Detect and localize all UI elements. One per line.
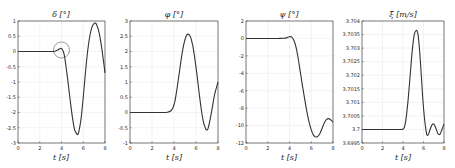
x-tick-label: 8	[331, 145, 334, 151]
y-tick-label: 0.5	[120, 94, 128, 100]
y-tick-label: 3.7015	[343, 86, 361, 92]
x-axis-label: t [s]	[281, 153, 298, 162]
x-tick-label: 8	[442, 145, 445, 151]
x-axis-label: t [s]	[395, 153, 412, 162]
x-tick-label: 8	[103, 145, 106, 151]
x-tick-label: 2	[381, 145, 384, 151]
y-tick-label: -2.5	[6, 125, 16, 131]
y-tick-label: -3	[11, 140, 16, 146]
y-tick-label: -0.5	[6, 64, 16, 70]
x-axis-label: t [s]	[166, 153, 183, 162]
grid	[246, 21, 333, 143]
y-tick-label: -2	[11, 109, 16, 115]
y-tick-label: 3.7025	[343, 58, 361, 64]
y-tick-label: 2	[241, 18, 244, 24]
y-tick-label: -1.5	[6, 94, 16, 100]
panel-title: ξ̇ [m/s]	[389, 10, 417, 19]
x-tick-label: 0	[16, 145, 19, 151]
x-tick-label: 2	[150, 145, 153, 151]
y-tick-label: 3.704	[346, 18, 360, 24]
grid	[130, 21, 218, 143]
x-tick-label: 4	[288, 145, 291, 151]
x-tick-label: 4	[172, 145, 175, 151]
grid	[18, 21, 105, 143]
y-tick-label: 0	[13, 48, 16, 54]
x-tick-label: 6	[422, 145, 425, 151]
y-tick-label: 3.701	[346, 99, 360, 105]
y-tick-label: 1	[13, 18, 16, 24]
y-tick-label: 1.5	[120, 64, 128, 70]
y-tick-label: 3	[125, 18, 128, 24]
y-tick-label: -8	[239, 105, 244, 111]
y-tick-label: 0	[241, 35, 244, 41]
y-tick-label: 0	[125, 109, 128, 115]
y-tick-label: 0.5	[8, 33, 16, 39]
panel-title: φ [°]	[165, 10, 184, 19]
y-axis-ticks: 10.50-0.5-1-1.5-2-2.5-3	[6, 18, 19, 146]
y-tick-label: -6	[239, 88, 244, 94]
y-tick-label: -10	[236, 122, 244, 128]
x-tick-label: 2	[38, 145, 41, 151]
figure: 0246810.50-0.5-1-1.5-2-2.5-3 δ [°] t [s]…	[0, 0, 455, 168]
panel-title: ψ [°]	[279, 10, 299, 19]
x-tick-label: 0	[128, 145, 131, 151]
x-tick-label: 4	[401, 145, 404, 151]
x-tick-label: 0	[360, 145, 363, 151]
y-tick-label: -2	[239, 53, 244, 59]
panel-delta: 0246810.50-0.5-1-1.5-2-2.5-3 δ [°] t [s]	[6, 10, 106, 162]
x-tick-label: 6	[82, 145, 85, 151]
y-tick-label: -0.5	[118, 125, 128, 131]
y-tick-label: 3.7035	[343, 31, 361, 37]
x-tick-label: 2	[266, 145, 269, 151]
y-tick-label: 3.7005	[343, 113, 361, 119]
panel-phi: 0246832.521.510.50-0.5-1 φ [°] t [s]	[118, 10, 219, 162]
y-tick-label: -1	[11, 79, 16, 85]
y-tick-label: 3.6995	[343, 140, 361, 146]
x-tick-label: 4	[60, 145, 63, 151]
y-tick-label: 1	[125, 79, 128, 85]
y-tick-label: 2	[125, 48, 128, 54]
y-tick-label: 2.5	[120, 33, 128, 39]
x-tick-label: 0	[244, 145, 247, 151]
panel-xi-dot: 024683.7043.70353.7033.70253.7023.70153.…	[343, 10, 446, 162]
x-tick-label: 6	[194, 145, 197, 151]
y-tick-label: 3.7	[352, 126, 360, 132]
y-tick-label: 3.703	[346, 45, 360, 51]
panel-title: δ [°]	[52, 10, 70, 19]
y-tick-label: -12	[236, 140, 244, 146]
x-tick-label: 8	[216, 145, 219, 151]
y-axis-ticks: 32.521.510.50-0.5-1	[118, 18, 131, 146]
panel-psi: 0246820-2-4-6-8-10-12 ψ [°] t [s]	[236, 10, 335, 162]
x-tick-label: 6	[310, 145, 313, 151]
y-tick-label: -1	[123, 140, 128, 146]
y-axis-ticks: 3.7043.70353.7033.70253.7023.70153.7013.…	[343, 18, 364, 146]
y-tick-label: 3.702	[346, 72, 360, 78]
x-axis-label: t [s]	[53, 153, 70, 162]
y-tick-label: -4	[239, 70, 244, 76]
